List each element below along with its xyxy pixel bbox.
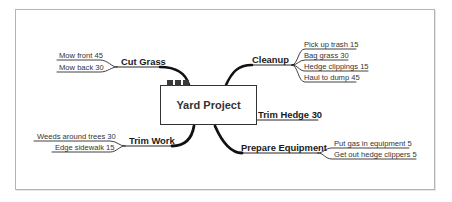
topic-prepare-equipment[interactable]: Prepare Equipment — [241, 143, 327, 152]
subtopic-get-hedge-clippers[interactable]: Get out hedge clippers 5 — [334, 151, 417, 159]
subtopic-edge-sidewalk[interactable]: Edge sidewalk 15 — [55, 144, 115, 152]
subtopic-weeds-around-trees[interactable]: Weeds around trees 30 — [37, 133, 116, 141]
subtopic-mow-front[interactable]: Mow front 45 — [59, 52, 103, 60]
subtopic-put-gas[interactable]: Put gas in equipment 5 — [334, 140, 412, 148]
subtopic-mow-back[interactable]: Mow back 30 — [59, 64, 104, 72]
task-marker-icon — [175, 80, 181, 86]
task-marker-icon — [183, 80, 189, 86]
subtopic-bag-grass[interactable]: Bag grass 30 — [304, 52, 349, 60]
topic-trim-work[interactable]: Trim Work — [129, 136, 175, 145]
subtopic-haul-to-dump[interactable]: Haul to dump 45 — [304, 74, 360, 82]
subtopic-pick-up-trash[interactable]: Pick up trash 15 — [304, 41, 358, 49]
task-marker-icon — [167, 80, 173, 86]
subtopic-hedge-clippings[interactable]: Hedge clippings 15 — [304, 63, 369, 71]
topic-trim-hedge[interactable]: Trim Hedge 30 — [258, 110, 322, 119]
central-topic[interactable]: Yard Project — [160, 85, 257, 125]
central-topic-label: Yard Project — [176, 99, 240, 111]
topic-cut-grass[interactable]: Cut Grass — [121, 57, 166, 66]
topic-cleanup[interactable]: Cleanup — [252, 55, 289, 64]
mind-map-canvas: Yard Project Cut Grass Mow front 45 Mow … — [0, 0, 452, 202]
